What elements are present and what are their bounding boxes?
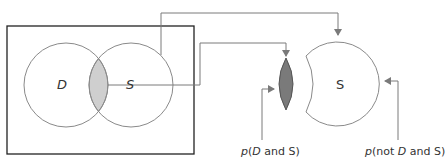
arrow-p-d-and-s [262, 89, 274, 140]
connector-s-to-crescent [161, 13, 338, 55]
label-p-not-d-and-s: p(not D and S) [365, 145, 445, 158]
label-p-d-and-s: p(D and S) [241, 145, 300, 158]
intersection-region [89, 59, 108, 112]
crescent-s-label: S [336, 77, 344, 92]
circle-d-label: D [57, 77, 67, 92]
connector-intersection-to-lens [108, 43, 286, 85]
circle-s-label: S [126, 77, 134, 92]
arrow-p-not-d-and-s [385, 81, 398, 140]
extracted-lens [279, 58, 293, 110]
